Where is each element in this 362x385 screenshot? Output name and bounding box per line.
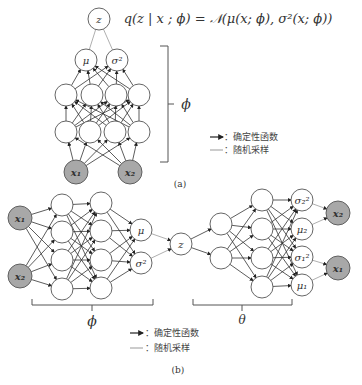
edge <box>191 229 211 239</box>
x2-in-label: x₂ <box>14 271 26 282</box>
hidden1-a-3-node <box>128 84 150 106</box>
edge <box>112 261 130 262</box>
caption-b: (b) <box>172 365 185 375</box>
edge <box>80 142 86 160</box>
mu-a-label: μ <box>83 55 90 66</box>
dec2-0-node <box>251 189 273 211</box>
edge <box>88 71 90 84</box>
edge <box>31 280 51 286</box>
formula: q(z | x ; ϕ) = 𝒩(μ(x; ϕ), σ²(x; ϕ)) <box>124 11 333 26</box>
dec1-1-node <box>210 247 232 269</box>
edge <box>31 264 52 272</box>
caption-a: (a) <box>174 179 186 189</box>
edge <box>232 225 251 227</box>
phi-bracket-b <box>32 299 153 311</box>
hidden1-a-1-node <box>81 84 103 106</box>
nodes: zμσ²x₁x₂x₁x₂μσ²zσ₂²μ₂σ₁²μ₁x₂x₁ <box>8 8 350 300</box>
enc1-1-node <box>51 221 73 243</box>
dec1-0-node <box>210 213 232 235</box>
enc1-2-node <box>51 249 73 271</box>
edge <box>312 218 327 225</box>
x2-a-label: x₂ <box>124 167 136 178</box>
edge <box>230 206 252 219</box>
sigma1-2-label: σ₁² <box>295 252 310 263</box>
edge <box>84 140 107 164</box>
edge <box>110 269 131 282</box>
legend-stochastic-a: ：随机采样 <box>224 144 269 155</box>
mu-1-label: μ₁ <box>297 280 308 291</box>
dec2-1-node <box>251 218 273 240</box>
edge <box>133 143 137 161</box>
enc1-3-node <box>51 278 73 300</box>
sigma2-2-label: σ₂² <box>295 195 310 206</box>
edge <box>71 70 80 86</box>
edge <box>273 286 291 287</box>
hidden2-a-0-node <box>55 121 77 143</box>
edge <box>73 204 90 205</box>
hidden2-a-1-node <box>79 121 101 143</box>
edge <box>103 29 112 50</box>
vae-diagram: zμσ²x₁x₂x₁x₂μσ²zσ₂²μ₂σ₁²μ₁x₂x₁ q(z | x ;… <box>0 0 362 385</box>
hidden2-a-2-node <box>104 121 126 143</box>
edge <box>312 273 327 280</box>
mu-b-label: μ <box>138 225 145 236</box>
phi-label-a: ϕ <box>181 96 191 112</box>
edge <box>28 240 54 267</box>
z-b-label: z <box>177 239 184 250</box>
edge <box>151 249 171 259</box>
edge <box>98 140 122 164</box>
legend-deterministic-a: ：确定性函数 <box>224 131 278 142</box>
enc2-1-node <box>90 220 112 242</box>
legend-stochastic-b: ：随机采样 <box>145 342 190 353</box>
enc1-0-node <box>51 194 73 216</box>
edge <box>313 260 327 264</box>
diagram-svg: zμσ²x₁x₂x₁x₂μσ²zσ₂²μ₂σ₁²μ₁x₂x₁ q(z | x ;… <box>0 0 362 385</box>
sigma2-a-label: σ² <box>112 55 123 66</box>
theta-bracket <box>193 299 292 311</box>
edge <box>312 204 326 209</box>
edge <box>230 264 253 280</box>
hidden1-a-2-node <box>105 84 127 106</box>
sigma2-b-label: σ² <box>136 258 147 269</box>
x1-out-label: x₁ <box>332 263 343 274</box>
x1-in-label: x₁ <box>14 213 25 224</box>
x1-a-label: x₁ <box>70 167 81 178</box>
edge <box>72 104 85 123</box>
dec2-2-node <box>251 247 273 269</box>
enc2-3-node <box>90 277 112 299</box>
theta-label: θ <box>238 313 246 327</box>
edge <box>69 143 73 161</box>
z-a-label: z <box>95 14 102 25</box>
edge <box>151 234 170 241</box>
enc2-0-node <box>90 192 112 214</box>
legend-deterministic-b: ：确定性函数 <box>145 327 199 338</box>
mu-2-label: μ₂ <box>297 224 308 235</box>
edge <box>119 142 126 160</box>
phi-bracket-a <box>160 46 174 162</box>
hidden1-a-0-node <box>55 84 77 106</box>
enc2-2-node <box>90 249 112 271</box>
edge <box>89 29 95 49</box>
x2-out-label: x₂ <box>332 208 344 219</box>
edge <box>123 69 133 85</box>
edge <box>191 248 210 255</box>
phi-label-b: ϕ <box>87 313 97 329</box>
dec2-3-node <box>251 276 273 298</box>
hidden2-a-3-node <box>128 121 150 143</box>
edge <box>31 208 51 214</box>
